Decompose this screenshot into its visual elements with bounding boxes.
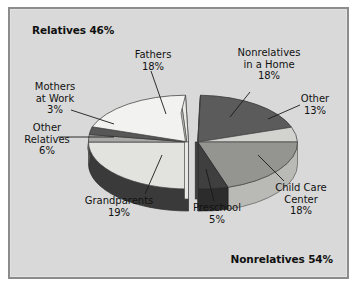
slice-cut-plane-relatives: [185, 142, 189, 199]
pie-group-relatives: [88, 95, 189, 211]
label-child-care-center-pct: 18%: [262, 205, 340, 217]
label-child-care-center: Child Care Center 18%: [262, 182, 340, 217]
label-fathers: Fathers 18%: [120, 49, 186, 72]
label-other-relatives-name-1: Other: [33, 122, 61, 133]
label-mothers-at-work-name-2: at Work: [24, 93, 86, 105]
label-child-care-center-name-1: Child Care: [275, 182, 327, 193]
label-nonrelatives-in-a-home: Nonrelatives in a Home 18%: [226, 47, 312, 82]
label-mothers-at-work-pct: 3%: [24, 104, 86, 116]
label-mothers-at-work-name-1: Mothers: [35, 81, 75, 92]
header-nonrelatives: Nonrelatives 54%: [231, 253, 333, 265]
label-other-nonrelatives: Other 13%: [288, 93, 342, 116]
label-fathers-name: Fathers: [135, 49, 172, 60]
label-other-relatives: Other Relatives 6%: [16, 122, 78, 157]
label-child-care-center-name-2: Center: [262, 194, 340, 206]
chart-figure-panel: Relatives 46% Nonrelatives 54% Fathers 1…: [8, 7, 349, 279]
label-grandparents-pct: 19%: [72, 207, 166, 219]
label-preschool-name: Preschool: [193, 202, 241, 213]
label-other-relatives-name-2: Relatives: [16, 134, 78, 146]
label-other-relatives-pct: 6%: [16, 145, 78, 157]
slice-cut-plane-nonrelatives: [195, 142, 198, 199]
label-preschool: Preschool 5%: [182, 202, 252, 225]
label-mothers-at-work: Mothers at Work 3%: [24, 81, 86, 116]
label-other-nonrelatives-pct: 13%: [288, 105, 342, 117]
label-grandparents-name: Grandparents: [85, 195, 154, 206]
label-nonrelatives-in-a-home-name-1: Nonrelatives: [238, 47, 301, 58]
label-other-nonrelatives-name: Other: [301, 93, 329, 104]
label-nonrelatives-in-a-home-pct: 18%: [226, 70, 312, 82]
label-fathers-pct: 18%: [120, 61, 186, 73]
label-preschool-pct: 5%: [182, 214, 252, 226]
header-relatives: Relatives 46%: [32, 24, 114, 36]
label-nonrelatives-in-a-home-name-2: in a Home: [226, 59, 312, 71]
label-grandparents: Grandparents 19%: [72, 195, 166, 218]
